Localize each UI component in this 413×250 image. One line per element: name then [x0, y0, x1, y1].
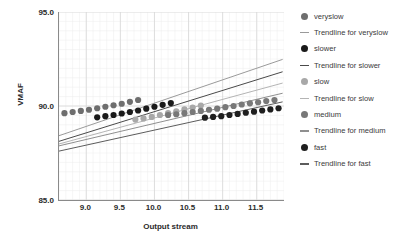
- legend-item[interactable]: fast: [298, 139, 413, 155]
- data-point: [102, 104, 108, 110]
- y-tick-label: 95.0: [20, 8, 54, 17]
- data-point: [239, 101, 245, 107]
- circle-icon: [301, 144, 308, 151]
- legend-dot-icon: [298, 74, 314, 90]
- data-point: [263, 98, 269, 104]
- legend-line-icon: [298, 156, 314, 172]
- data-point: [198, 108, 204, 114]
- legend-item[interactable]: Trendline for fast: [298, 156, 413, 172]
- y-axis-tick-labels: 95.090.085.0: [20, 0, 54, 250]
- legend-item-label: Trendline for medium: [314, 126, 385, 135]
- data-point: [127, 99, 133, 105]
- data-point: [132, 116, 138, 122]
- data-point: [210, 114, 216, 120]
- circle-icon: [301, 13, 308, 20]
- x-axis-title: Output stream: [58, 222, 283, 231]
- line-icon: [300, 65, 309, 66]
- legend-item[interactable]: Trendline for veryslow: [298, 24, 413, 40]
- legend-item[interactable]: slower: [298, 41, 413, 57]
- legend-dot-icon: [298, 139, 314, 155]
- legend-item-label: fast: [314, 143, 326, 152]
- legend-item-label: veryslow: [314, 12, 344, 21]
- legend: veryslowTrendline for veryslowslowerTren…: [298, 8, 413, 172]
- data-point: [119, 101, 125, 107]
- trendline: [59, 72, 283, 142]
- x-tick-label: 9.0: [80, 203, 91, 212]
- plot-area: [58, 12, 284, 201]
- legend-item-label: Trendline for fast: [314, 159, 371, 168]
- legend-dot-icon: [298, 107, 314, 123]
- legend-item[interactable]: slow: [298, 74, 413, 90]
- circle-icon: [301, 45, 308, 52]
- data-point: [218, 113, 224, 119]
- legend-item[interactable]: Trendline for medium: [298, 123, 413, 139]
- x-axis-tick-labels: 9.09.510.010.511.011.5: [58, 203, 283, 215]
- data-point: [110, 102, 116, 108]
- chart-screenshot: VMAF 95.090.085.0 9.09.510.010.511.011.5…: [0, 0, 413, 250]
- data-point: [127, 109, 133, 115]
- data-point: [94, 114, 100, 120]
- x-tick-label: 10.0: [146, 203, 162, 212]
- data-point: [70, 109, 76, 115]
- data-point: [243, 110, 249, 116]
- legend-item-label: Trendline for veryslow: [314, 28, 388, 37]
- x-tick-label: 11.5: [248, 203, 263, 212]
- data-point: [271, 97, 277, 103]
- legend-item[interactable]: Trendline for slower: [298, 57, 413, 73]
- data-point: [165, 112, 171, 118]
- data-point: [230, 103, 236, 109]
- y-tick-label: 85.0: [20, 196, 54, 205]
- data-point: [235, 111, 241, 117]
- legend-item-label: Trendline for slower: [314, 61, 380, 70]
- data-point: [173, 111, 179, 117]
- line-icon: [300, 98, 309, 99]
- legend-item-label: medium: [314, 110, 341, 119]
- circle-icon: [301, 78, 308, 85]
- data-point: [226, 112, 232, 118]
- x-tick-label: 11.0: [214, 203, 229, 212]
- data-point: [251, 109, 257, 115]
- data-point: [157, 112, 163, 118]
- data-point: [168, 100, 174, 106]
- data-point: [135, 107, 141, 113]
- data-point: [267, 106, 273, 112]
- legend-item[interactable]: medium: [298, 106, 413, 122]
- legend-item[interactable]: Trendline for slow: [298, 90, 413, 106]
- line-icon: [300, 130, 309, 131]
- data-point: [143, 106, 149, 112]
- trendline: [59, 59, 283, 135]
- data-point: [259, 107, 265, 113]
- data-point: [160, 102, 166, 108]
- data-point: [247, 100, 253, 106]
- data-point: [110, 112, 116, 118]
- data-point: [151, 104, 157, 110]
- data-point: [135, 97, 141, 103]
- legend-item-label: slow: [314, 77, 329, 86]
- legend-line-icon: [298, 90, 314, 106]
- data-point: [102, 113, 108, 119]
- data-point: [149, 114, 155, 120]
- data-point: [206, 107, 212, 113]
- data-point: [119, 110, 125, 116]
- data-point: [222, 104, 228, 110]
- data-point: [214, 106, 220, 112]
- legend-item[interactable]: veryslow: [298, 8, 413, 24]
- legend-item-label: Trendline for slow: [314, 94, 374, 103]
- legend-line-icon: [298, 25, 314, 41]
- data-point: [78, 108, 84, 114]
- data-point: [255, 99, 261, 105]
- data-point: [94, 105, 100, 111]
- data-point: [275, 105, 281, 111]
- line-icon: [300, 32, 309, 33]
- data-point: [61, 110, 67, 116]
- y-tick-label: 90.0: [20, 102, 54, 111]
- legend-line-icon: [298, 123, 314, 139]
- legend-line-icon: [298, 57, 314, 73]
- line-icon: [300, 163, 309, 164]
- x-tick-label: 9.5: [114, 203, 125, 212]
- data-point: [140, 115, 146, 121]
- circle-icon: [301, 111, 308, 118]
- legend-dot-icon: [298, 8, 314, 24]
- data-point: [86, 107, 92, 113]
- legend-item-label: slower: [314, 44, 336, 53]
